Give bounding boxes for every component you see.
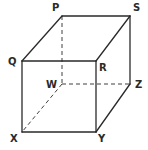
vertex-label-z: Z	[135, 79, 142, 90]
edge-YZ	[96, 84, 130, 132]
vertex-label-q: Q	[8, 56, 17, 67]
vertex-label-y: Y	[97, 133, 106, 144]
hidden-edge-WX	[22, 84, 62, 132]
vertex-label-x: X	[10, 133, 18, 144]
cube-svg: PSQRWZXY	[0, 0, 148, 150]
vertex-labels: PSQRWZXY	[8, 2, 142, 144]
hidden-edges	[22, 16, 130, 132]
vertex-label-w: W	[46, 79, 57, 90]
visible-edges	[22, 16, 130, 132]
edge-RS	[96, 16, 130, 61]
edge-QP	[22, 16, 62, 61]
cube-diagram: PSQRWZXY	[0, 0, 148, 150]
vertex-label-s: S	[133, 2, 140, 13]
vertex-label-p: P	[52, 2, 59, 13]
vertex-label-r: R	[99, 62, 107, 73]
